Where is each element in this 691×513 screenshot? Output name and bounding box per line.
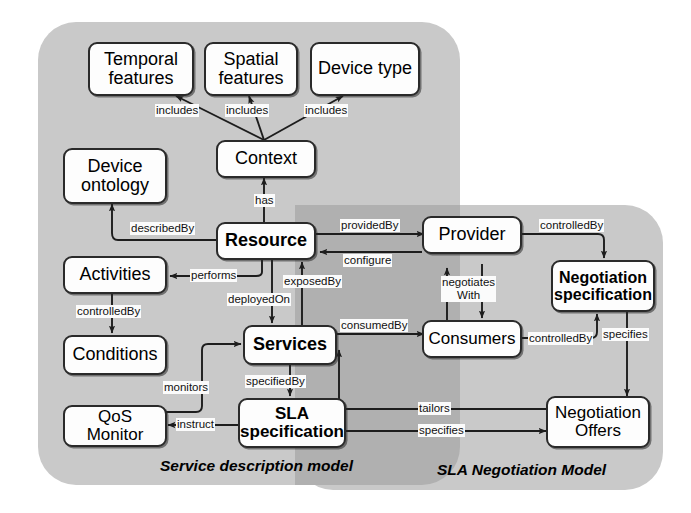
edge-label-exposedby: exposedBy: [283, 275, 342, 288]
node-spatial-features[interactable]: Spatial features: [204, 42, 298, 96]
node-label-provider: Provider: [435, 225, 508, 244]
node-consumers[interactable]: Consumers: [422, 320, 522, 358]
node-label-services: Services: [250, 335, 330, 354]
edge-label-configure: configure: [343, 254, 392, 267]
edge-label-includes-spatial: includes: [225, 104, 269, 117]
node-label-conditions: Conditions: [69, 345, 160, 364]
node-label-device-ontology: Device ontology: [65, 157, 165, 196]
node-conditions[interactable]: Conditions: [63, 335, 167, 375]
diagram-canvas: Temporal features Spatial features Devic…: [0, 0, 691, 513]
node-label-spatial-features: Spatial features: [206, 50, 296, 89]
node-negotiation-specification[interactable]: Negotiation specification: [551, 260, 655, 312]
node-resource[interactable]: Resource: [216, 222, 316, 260]
edge-label-monitors: monitors: [163, 381, 209, 394]
node-activities[interactable]: Activities: [63, 256, 167, 294]
edge-label-consumedby: consumedBy: [340, 319, 408, 332]
edge-label-providedby: providedBy: [340, 219, 400, 232]
edge-label-instruct: instruct: [176, 418, 215, 431]
node-label-negotiation-offers: Negotiation Offers: [548, 404, 648, 441]
edge-label-includes-devicetype: includes: [304, 104, 348, 117]
edge-label-negotiateswith: negotiates With: [441, 276, 496, 302]
edge-label-specifiedby: specifiedBy: [245, 375, 306, 388]
node-label-device-type: Device type: [315, 59, 415, 78]
edge-label-tailors: tailors: [418, 402, 451, 415]
edge-label-includes-temporal: includes: [155, 104, 199, 117]
node-qos-monitor[interactable]: QoS Monitor: [63, 405, 167, 447]
edge-label-controlledby-consumers: controlledBy: [528, 332, 593, 345]
edge-qos-services: [166, 344, 241, 412]
edge-label-controlledby-provider: controlledBy: [539, 219, 604, 232]
node-label-negotiation-specification: Negotiation specification: [551, 269, 655, 304]
node-temporal-features[interactable]: Temporal features: [88, 42, 194, 96]
edge-label-describedby: describedBy: [130, 222, 195, 235]
node-sla-specification[interactable]: SLA specification: [238, 398, 346, 448]
node-device-type[interactable]: Device type: [310, 42, 420, 96]
node-device-ontology[interactable]: Device ontology: [63, 148, 167, 204]
edge-label-performs: performs: [190, 269, 237, 282]
node-context[interactable]: Context: [216, 140, 316, 178]
node-label-activities: Activities: [76, 265, 153, 284]
edge-provider-negspec: [521, 234, 604, 258]
edge-offers-services: [339, 350, 551, 409]
node-services[interactable]: Services: [243, 325, 337, 365]
node-label-context: Context: [232, 149, 300, 168]
edge-label-specifies-negspec: specifies: [602, 328, 649, 341]
panel-caption-service-description: Service description model: [160, 457, 353, 475]
node-provider[interactable]: Provider: [422, 216, 522, 254]
node-label-resource: Resource: [222, 231, 310, 250]
edge-label-deployedon: deployedOn: [227, 293, 291, 306]
node-label-consumers: Consumers: [426, 330, 519, 348]
edge-label-has: has: [254, 194, 275, 207]
node-negotiation-offers[interactable]: Negotiation Offers: [546, 396, 650, 448]
node-label-sla-specification: SLA specification: [237, 405, 347, 442]
edge-label-controlledby-activities: controlledBy: [76, 305, 141, 318]
node-label-qos-monitor: QoS Monitor: [65, 408, 165, 445]
edge-context-devicetype: [264, 96, 343, 140]
panel-caption-sla-negotiation: SLA Negotiation Model: [437, 461, 606, 479]
edge-label-specifies-sla: specifies: [418, 424, 465, 437]
node-label-temporal-features: Temporal features: [90, 50, 192, 89]
